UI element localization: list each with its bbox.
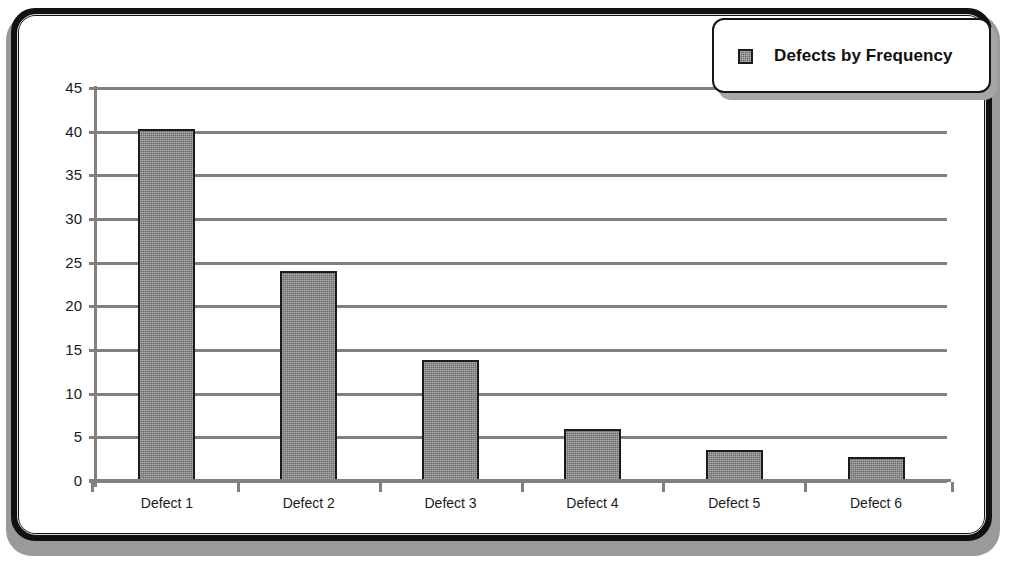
bar bbox=[848, 457, 905, 481]
x-axis-tick-label: Defect 5 bbox=[663, 496, 805, 510]
chart-legend: Defects by Frequency bbox=[712, 18, 997, 100]
gridline bbox=[96, 131, 947, 134]
y-axis-tick-label: 25 bbox=[42, 255, 82, 270]
gridline bbox=[96, 174, 947, 177]
plot-area bbox=[96, 88, 947, 481]
x-axis-tick-mark bbox=[237, 482, 240, 492]
y-axis-tick-mark bbox=[89, 218, 97, 221]
legend-entry-label: Defects by Frequency bbox=[774, 46, 953, 66]
x-axis-end-tick-mark bbox=[951, 482, 954, 492]
x-axis-tick-mark bbox=[379, 482, 382, 492]
x-axis-tick-label: Defect 1 bbox=[96, 496, 238, 510]
gridline bbox=[96, 262, 947, 265]
y-axis-tick-label: 40 bbox=[42, 124, 82, 139]
y-axis-tick-label: 20 bbox=[42, 298, 82, 313]
y-axis-tick-label: 15 bbox=[42, 342, 82, 357]
legend-color-swatch bbox=[738, 49, 753, 64]
y-axis-tick-label: 30 bbox=[42, 211, 82, 226]
legend-entry[interactable]: Defects by Frequency bbox=[738, 46, 953, 66]
x-axis-tick-label: Defect 4 bbox=[522, 496, 664, 510]
gridline bbox=[96, 218, 947, 221]
y-axis-tick-labels: 051015202530354045 bbox=[38, 0, 82, 568]
y-axis-tick-mark bbox=[89, 349, 97, 352]
x-axis-tick-label: Defect 3 bbox=[380, 496, 522, 510]
y-axis-tick-mark bbox=[89, 174, 97, 177]
y-axis-tick-label: 10 bbox=[42, 386, 82, 401]
x-axis-tick-mark bbox=[521, 482, 524, 492]
bar bbox=[422, 360, 479, 481]
gridline bbox=[96, 305, 947, 308]
gridline bbox=[96, 436, 947, 439]
y-axis-tick-mark bbox=[89, 305, 97, 308]
x-axis-tick-label: Defect 6 bbox=[805, 496, 947, 510]
x-axis-end-tick-mark bbox=[91, 482, 94, 492]
x-axis-tick-mark bbox=[662, 482, 665, 492]
bar bbox=[564, 429, 621, 481]
y-axis-tick-mark bbox=[89, 393, 97, 396]
bar bbox=[706, 450, 763, 481]
y-axis-tick-mark bbox=[89, 436, 97, 439]
legend-box: Defects by Frequency bbox=[712, 18, 991, 93]
y-axis-tick-label: 35 bbox=[42, 167, 82, 182]
y-axis-tick-label: 5 bbox=[42, 429, 82, 444]
bar bbox=[138, 129, 195, 481]
gridline bbox=[96, 349, 947, 352]
y-axis-tick-label: 0 bbox=[42, 473, 82, 488]
y-axis-tick-mark bbox=[89, 131, 97, 134]
x-axis-tick-mark bbox=[804, 482, 807, 492]
y-axis-tick-mark bbox=[89, 87, 97, 90]
y-axis-tick-mark bbox=[89, 262, 97, 265]
x-axis-tick-label: Defect 2 bbox=[238, 496, 380, 510]
chart-panel: 051015202530354045 Defect 1Defect 2Defec… bbox=[0, 0, 1009, 568]
y-axis-line bbox=[94, 86, 97, 487]
bar bbox=[280, 271, 337, 481]
y-axis-tick-label: 45 bbox=[42, 80, 82, 95]
gridline bbox=[96, 393, 947, 396]
